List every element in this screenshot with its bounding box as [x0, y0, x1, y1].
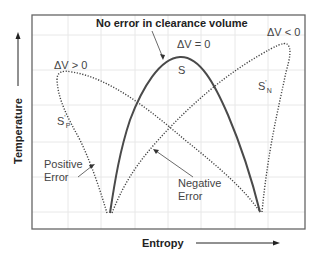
- positive-error-arrowhead: [89, 164, 95, 169]
- ts-diagram: No error in clearance volume ΔV = 0 ΔV >…: [0, 0, 319, 257]
- x-axis-label: Entropy: [142, 237, 184, 249]
- label-s-prime-p: S'P: [57, 114, 71, 129]
- label-positive-error-2: Error: [44, 171, 69, 183]
- label-s-prime-n: S'N: [258, 79, 272, 94]
- y-axis-arrowhead: [16, 32, 21, 39]
- diagram-title: No error in clearance volume: [96, 17, 248, 29]
- y-axis-label: Temperature: [12, 98, 24, 164]
- negative-error-arrow: [156, 151, 193, 177]
- negative-error-arrowhead: [153, 149, 159, 154]
- label-negative-error-2: Error: [178, 190, 203, 202]
- x-axis-arrowhead: [273, 241, 280, 246]
- label-dv-positive: ΔV > 0: [54, 59, 87, 71]
- label-s: S: [178, 64, 185, 76]
- label-dv-zero: ΔV = 0: [177, 38, 210, 50]
- label-dv-negative: ΔV < 0: [267, 26, 300, 38]
- label-negative-error-1: Negative: [178, 177, 221, 189]
- label-positive-error-1: Positive: [44, 158, 83, 170]
- title-arrowhead: [160, 54, 165, 60]
